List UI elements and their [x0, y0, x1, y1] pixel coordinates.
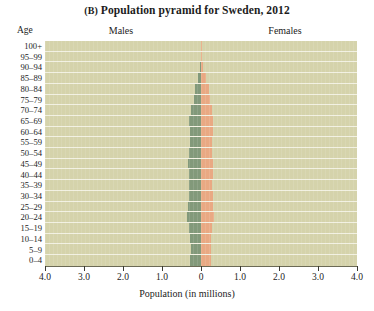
x-tick-mark: [162, 266, 163, 271]
y-tick-label: 15–19: [8, 224, 42, 233]
pyramid-row: [45, 159, 357, 170]
pyramid-row: [45, 95, 357, 106]
y-tick-label: 30–34: [8, 192, 42, 201]
y-tick-label: 10–14: [8, 235, 42, 244]
pyramid-row: [45, 148, 357, 159]
female-bar: [201, 244, 211, 254]
x-tick-mark: [201, 266, 202, 271]
panel-letter: (B): [84, 5, 98, 16]
pyramid-row: [45, 73, 357, 84]
x-tick-label: 2.0: [264, 272, 294, 282]
female-bar: [201, 191, 213, 201]
females-legend-label: Females: [257, 25, 313, 36]
plot-area: [45, 41, 357, 266]
female-bar: [201, 84, 209, 94]
y-tick-label: 40–44: [8, 171, 42, 180]
pyramid-row: [45, 223, 357, 234]
pyramid-row: [45, 234, 357, 245]
female-bar: [201, 212, 214, 222]
pyramid-row: [45, 255, 357, 266]
x-tick-label: 3.0: [303, 272, 333, 282]
male-bar: [194, 95, 201, 105]
x-tick-label: 4.0: [342, 272, 372, 282]
y-tick-label: 95–99: [8, 53, 42, 62]
x-tick-mark: [123, 266, 124, 271]
pyramid-row: [45, 52, 357, 63]
male-bar: [191, 105, 201, 115]
male-bar: [190, 137, 201, 147]
pyramid-row: [45, 180, 357, 191]
y-tick-label: 65–69: [8, 117, 42, 126]
pyramid-row: [45, 191, 357, 202]
y-tick-label: 85–89: [8, 74, 42, 83]
pyramid-row: [45, 41, 357, 52]
male-bar: [190, 255, 201, 266]
x-tick-label: 1.0: [147, 272, 177, 282]
x-tick-mark: [84, 266, 85, 271]
x-tick-label: 3.0: [69, 272, 99, 282]
pyramid-row: [45, 62, 357, 73]
male-bar: [189, 191, 201, 201]
y-tick-label: 50–54: [8, 149, 42, 158]
female-bar: [201, 52, 202, 62]
male-bar: [189, 169, 201, 179]
figure-title: (B) Population pyramid for Sweden, 2012: [0, 4, 374, 16]
female-bar: [201, 234, 211, 244]
y-tick-label: 20–24: [8, 213, 42, 222]
pyramid-row: [45, 212, 357, 223]
x-axis-title: Population (in millions): [0, 288, 374, 299]
female-bar: [201, 73, 206, 83]
y-tick-label: 75–79: [8, 96, 42, 105]
pyramid-row: [45, 244, 357, 255]
x-tick-label: 0: [186, 272, 216, 282]
x-tick-label: 4.0: [30, 272, 60, 282]
x-tick-label: 1.0: [225, 272, 255, 282]
female-bar: [201, 148, 212, 158]
y-tick-label: 5–9: [8, 246, 42, 255]
female-bar: [201, 116, 213, 126]
male-bar: [187, 212, 201, 222]
pyramid-row: [45, 202, 357, 213]
pyramid-row: [45, 116, 357, 127]
y-tick-label: 0–4: [8, 256, 42, 265]
y-tick-label: 100+: [8, 42, 42, 51]
y-tick-label: 35–39: [8, 181, 42, 190]
male-bar: [189, 116, 201, 126]
y-tick-label: 90–94: [8, 63, 42, 72]
female-bar: [201, 202, 213, 212]
female-bar: [201, 159, 213, 169]
y-tick-label: 70–74: [8, 106, 42, 115]
male-bar: [188, 159, 201, 169]
figure-title-text: Population pyramid for Sweden, 2012: [101, 4, 290, 16]
male-bar: [188, 202, 201, 212]
female-bar: [201, 95, 210, 105]
pyramid-row: [45, 169, 357, 180]
male-bar: [189, 223, 201, 233]
x-tick-mark: [279, 266, 280, 271]
pyramid-row: [45, 105, 357, 116]
y-tick-label: 60–64: [8, 128, 42, 137]
x-tick-mark: [318, 266, 319, 271]
y-tick-label: 25–29: [8, 203, 42, 212]
female-bar: [201, 255, 211, 266]
female-bar: [201, 62, 203, 72]
female-bar: [201, 137, 212, 147]
female-bar: [201, 223, 212, 233]
population-pyramid-figure: (B) Population pyramid for Sweden, 2012 …: [0, 0, 374, 311]
x-tick-label: 2.0: [108, 272, 138, 282]
male-bar: [190, 127, 201, 137]
female-bar: [201, 169, 213, 179]
x-tick-mark: [357, 266, 358, 271]
x-tick-mark: [240, 266, 241, 271]
y-tick-label: 80–84: [8, 85, 42, 94]
males-legend-label: Males: [95, 25, 147, 36]
y-tick-label: 45–49: [8, 160, 42, 169]
pyramid-row: [45, 127, 357, 138]
male-bar: [189, 180, 201, 190]
pyramid-row: [45, 84, 357, 95]
x-tick-mark: [45, 266, 46, 271]
male-bar: [190, 234, 201, 244]
y-tick-label: 55–59: [8, 138, 42, 147]
female-bar: [201, 127, 213, 137]
age-axis-label: Age: [17, 25, 33, 35]
